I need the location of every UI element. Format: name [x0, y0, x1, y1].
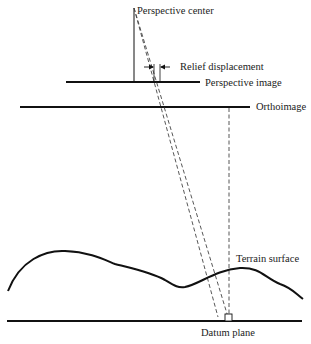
- perspective-center-label: Perspective center: [137, 6, 214, 17]
- terrain-surface-label: Terrain surface: [236, 254, 299, 265]
- orthoimage-label: Orthoimage: [256, 102, 306, 113]
- datum-plane-label: Datum plane: [201, 328, 255, 339]
- perspective-image-label: Perspective image: [205, 78, 282, 89]
- relief-arrow-left-icon: [144, 65, 154, 70]
- datum-point-marker: [225, 314, 232, 321]
- ray-to-datum: [134, 8, 218, 317]
- relief-arrow-right-icon: [160, 65, 170, 70]
- ray-to-terrain: [134, 8, 228, 317]
- relief-displacement-label: Relief displacement: [180, 62, 264, 73]
- orthorectification-diagram: [0, 0, 311, 344]
